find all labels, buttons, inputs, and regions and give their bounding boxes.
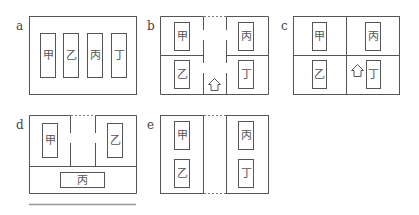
room-label: 丁 (368, 68, 379, 81)
panel-label-e: e (147, 118, 154, 132)
panel-c: c 甲 丙 乙 丁 (281, 17, 400, 95)
room-label: 乙 (177, 68, 188, 81)
room-label: 丙 (241, 30, 252, 43)
room-label: 乙 (177, 167, 188, 180)
panel-label-d: d (16, 118, 24, 132)
arrow-up-icon (352, 65, 364, 77)
room-label: 乙 (66, 49, 77, 62)
room-label: 丁 (241, 167, 252, 180)
room-label: 丙 (241, 129, 252, 142)
room-label: 乙 (314, 68, 325, 81)
room-label: 甲 (45, 134, 56, 147)
arrow-up-icon (209, 79, 221, 91)
room-label: 丙 (368, 30, 379, 43)
room-label: 乙 (110, 134, 121, 147)
panel-label-a: a (16, 19, 23, 33)
room-label: 丁 (114, 49, 125, 62)
panel-b: b 甲 丙 乙 丁 (147, 17, 269, 95)
room-label: 甲 (314, 30, 325, 43)
room-label: 丙 (90, 49, 101, 62)
room-label: 甲 (177, 129, 188, 142)
room-label: 甲 (43, 49, 54, 62)
room-label: 丁 (241, 68, 252, 81)
room-label: 甲 (177, 30, 188, 43)
panel-e: e 甲 丙 乙 丁 (147, 116, 269, 194)
panel-a: a 甲 乙 丙 丁 (16, 17, 137, 95)
panel-label-c: c (281, 19, 288, 33)
panel-d: d 甲 乙 丙 (16, 116, 137, 205)
room-label: 丙 (77, 174, 88, 187)
layout-diagram: a 甲 乙 丙 丁 b 甲 丙 乙 丁 c (0, 0, 419, 215)
panel-label-b: b (147, 19, 155, 33)
